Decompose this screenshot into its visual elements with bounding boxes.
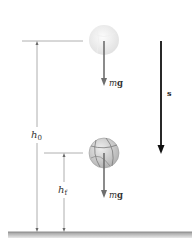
mg-label-lower: mg xyxy=(109,190,123,200)
displacement-arrow xyxy=(158,41,165,154)
mg-label-upper: mg xyxy=(109,78,123,88)
displacement-label: s xyxy=(167,88,172,98)
ground xyxy=(8,232,192,238)
free-fall-diagram: h0 hf mg mg s xyxy=(0,0,194,248)
